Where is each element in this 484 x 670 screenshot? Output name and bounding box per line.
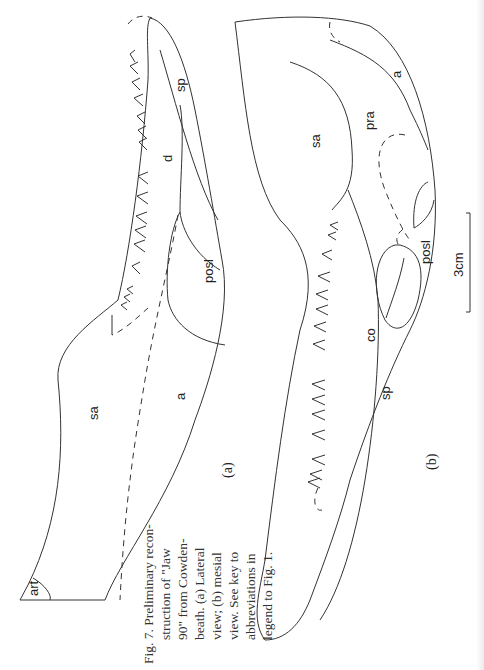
label-sp-b: sp — [378, 386, 393, 400]
panel-a-label: (a) — [220, 462, 236, 478]
label-d: d — [160, 155, 175, 162]
caption-line-6: view. See key to — [226, 551, 241, 640]
a-strip-dash — [329, 22, 340, 42]
caption-line-5: view; (b) mesial — [209, 552, 224, 640]
jaw-a-outline — [20, 18, 225, 600]
scale-bar-label: 3cm — [451, 252, 466, 277]
teeth-a — [121, 50, 148, 310]
posl-outline-b — [414, 182, 434, 228]
caption-line-1: Fig. 7. Preliminary recon- — [141, 524, 156, 664]
figure-7: art sa a posl d sp (a) — [0, 0, 484, 670]
jaw-b-outline — [235, 17, 435, 640]
a-strip-line — [330, 40, 428, 150]
label-a-b: a — [389, 70, 404, 78]
caption-line-8: legend to Fig. 1. — [260, 552, 275, 640]
sp-line-a — [160, 50, 218, 220]
co-line — [320, 190, 378, 620]
page-edge-shadow — [476, 0, 484, 670]
oval-b — [376, 245, 421, 328]
panel-b-mesial-view: sa pra a posl co sp (b) — [235, 17, 440, 640]
fossa-dashed-b — [379, 134, 410, 240]
teeth-b — [308, 222, 338, 488]
posl-outline-a — [167, 212, 225, 345]
oval-divider-b — [386, 258, 404, 318]
label-sa-b: sa — [308, 134, 323, 149]
caption-line-4: beath. (a) Lateral — [192, 547, 207, 640]
label-pra: pra — [362, 110, 377, 130]
panel-b-label: (b) — [424, 453, 440, 470]
caption-line-3: 90" from Cowden- — [175, 538, 190, 640]
caption-line-7: abbreviations in — [243, 553, 258, 640]
dentary-line-a — [180, 105, 220, 270]
caption-line-2: struction of "Jaw — [158, 548, 173, 640]
label-sp-a: sp — [173, 78, 188, 92]
label-posl-a: posl — [201, 259, 216, 283]
figure-caption: Fig. 7. Preliminary recon- struction of … — [141, 524, 275, 664]
panel-a-lateral-view: art sa a posl d sp (a) — [20, 16, 236, 600]
label-a-a: a — [173, 392, 188, 400]
sa-d-boundary-a — [112, 308, 148, 335]
label-posl-b: posl — [418, 240, 433, 264]
scale-bar: 3cm — [451, 213, 470, 312]
tip-b-dashed — [315, 488, 322, 510]
oval-connector-b — [397, 228, 405, 244]
label-sa-a: sa — [86, 406, 101, 421]
label-art: art — [26, 580, 41, 596]
label-co: co — [363, 328, 378, 342]
